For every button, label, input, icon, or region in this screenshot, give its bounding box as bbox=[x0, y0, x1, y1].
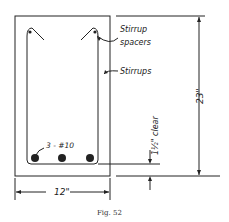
label-clear-cover: 1½" clear bbox=[151, 115, 160, 155]
rebar-3 bbox=[86, 154, 94, 162]
label-height: 23" bbox=[195, 88, 205, 104]
stirrup-hook-left bbox=[27, 28, 44, 40]
figure-caption: Fig. 52 bbox=[97, 209, 122, 217]
beam-cross-section-diagram: Stirrup spacers Stirrups 3 - #10 12" 23"… bbox=[0, 0, 229, 222]
stirrup-hook-right bbox=[81, 28, 98, 40]
spacer-bar-right bbox=[93, 30, 96, 33]
rebar-1 bbox=[31, 154, 39, 162]
label-width: 12" bbox=[54, 187, 70, 197]
label-bars: 3 - #10 bbox=[46, 141, 74, 150]
label-stirrup-spacers-2: spacers bbox=[120, 38, 151, 47]
label-stirrups: Stirrups bbox=[120, 67, 151, 76]
label-stirrup-spacers-1: Stirrup bbox=[120, 25, 147, 34]
beam-outline bbox=[15, 16, 110, 176]
spacer-bar-left bbox=[28, 30, 31, 33]
rebar-2 bbox=[58, 154, 66, 162]
